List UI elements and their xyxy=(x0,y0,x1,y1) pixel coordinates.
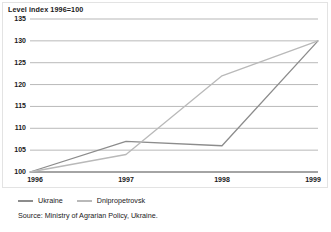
y-tick-label: 115 xyxy=(4,102,26,109)
x-tick-label: 1999 xyxy=(296,176,330,183)
y-tick-label: 125 xyxy=(4,59,26,66)
y-tick-label: 100 xyxy=(4,168,26,175)
y-tick-label: 110 xyxy=(4,124,26,131)
legend-swatch xyxy=(18,200,33,202)
legend-entry: Dnipropetrovsk xyxy=(77,196,145,205)
chart-figure: Level index 1996=100 1001051101151201251… xyxy=(0,0,331,232)
legend-label: Ukraine xyxy=(38,196,63,205)
y-tick-label: 120 xyxy=(4,81,26,88)
chart-legend: UkraineDnipropetrovsk xyxy=(18,196,145,205)
x-tick-label: 1996 xyxy=(18,176,52,183)
legend-label: Dnipropetrovsk xyxy=(97,196,145,205)
legend-swatch xyxy=(77,200,92,202)
y-tick-label: 135 xyxy=(4,15,26,22)
gridlines xyxy=(30,19,318,172)
y-tick-label: 130 xyxy=(4,37,26,44)
x-tick-label: 1997 xyxy=(109,176,143,183)
source-note: Source: Ministry of Agrarian Policy, Ukr… xyxy=(18,211,158,220)
x-tick-label: 1998 xyxy=(205,176,239,183)
y-tick-label: 105 xyxy=(4,146,26,153)
legend-entry: Ukraine xyxy=(18,196,63,205)
